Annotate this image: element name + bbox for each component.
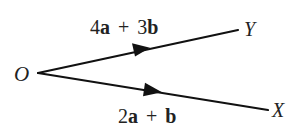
vector-a: a bbox=[128, 105, 138, 127]
vector-a: a bbox=[100, 16, 110, 38]
coef-2: 2 bbox=[118, 105, 128, 127]
vector-label-OX: 2a+b bbox=[118, 105, 176, 127]
plus-sign: + bbox=[118, 16, 129, 38]
vector-diagram: O Y X 4a+3b 2a+b bbox=[0, 0, 302, 133]
vector-b: b bbox=[165, 105, 176, 127]
point-label-X: X bbox=[271, 99, 285, 121]
coef-3: 3 bbox=[137, 16, 147, 38]
point-label-Y: Y bbox=[244, 18, 257, 40]
arrowhead-OX-icon bbox=[143, 83, 162, 97]
plus-sign: + bbox=[146, 105, 157, 127]
vector-b: b bbox=[147, 16, 158, 38]
vector-label-OY: 4a+3b bbox=[90, 16, 158, 38]
coef-4: 4 bbox=[90, 16, 100, 38]
point-label-O: O bbox=[14, 62, 29, 86]
